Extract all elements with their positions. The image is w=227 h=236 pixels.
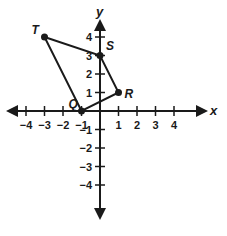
points: TSRQ (32, 23, 134, 115)
point-t (41, 34, 48, 41)
x-axis-right-arrow-icon (196, 105, 208, 117)
x-tick-label: 3 (152, 119, 158, 131)
y-tick-label: −4 (79, 179, 92, 191)
y-tick-label: −3 (79, 161, 92, 173)
y-tick-label: 2 (86, 68, 92, 80)
coordinate-plane: −4−3−2−112344321−1−2−3−4 x y TSRQ (0, 0, 227, 236)
y-tick-label: −2 (79, 142, 92, 154)
y-axis-down-arrow-icon (94, 208, 106, 220)
point-r (115, 89, 122, 96)
point-label-s: S (106, 39, 114, 53)
x-tick-label: −2 (57, 119, 70, 131)
y-axis-up-arrow-icon (94, 19, 106, 31)
x-axis-label: x (209, 103, 218, 118)
point-s (97, 52, 104, 59)
x-tick-label: −4 (20, 119, 33, 131)
x-tick-label: −3 (38, 119, 51, 131)
point-q (78, 108, 85, 115)
y-tick-label: −1 (79, 124, 92, 136)
point-label-r: R (125, 87, 134, 101)
x-tick-label: 2 (134, 119, 140, 131)
y-tick-label: 1 (86, 87, 92, 99)
y-axis-label: y (95, 4, 104, 19)
x-tick-label: 4 (171, 119, 178, 131)
y-tick-label: 4 (86, 31, 93, 43)
x-axis-left-arrow-icon (6, 105, 18, 117)
x-tick-label: 1 (115, 119, 121, 131)
point-label-t: T (32, 23, 41, 37)
point-label-q: Q (69, 97, 79, 111)
